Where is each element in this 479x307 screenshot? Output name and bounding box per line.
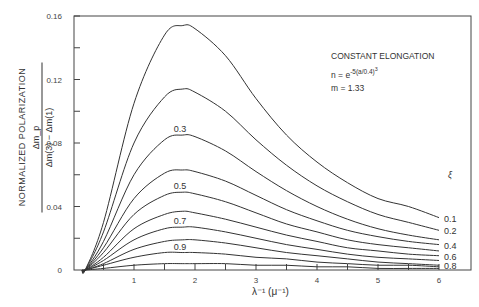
end-label-0.4: 0.4 bbox=[444, 241, 457, 251]
annotation-box: CONSTANT ELONGATION n = e-5(a/0.4)3 m = … bbox=[331, 50, 434, 95]
annotation-formula: n = e-5(a/0.4)3 bbox=[331, 63, 434, 82]
x-tick-label: 2 bbox=[193, 276, 198, 285]
end-label-0.8: 0.8 bbox=[444, 261, 457, 271]
legend-title-xi: ξ bbox=[448, 170, 453, 180]
curve-xi-0.9 bbox=[82, 252, 439, 270]
inline-label-0.9: 0.9 bbox=[174, 242, 187, 252]
y-axis-fraction: Δm_p Δm(3) − Δm(1) bbox=[22, 20, 62, 270]
end-label-0.2: 0.2 bbox=[444, 226, 457, 236]
curve-xi-0.5 bbox=[82, 192, 439, 271]
inline-label-0.5: 0.5 bbox=[174, 181, 187, 191]
curve-xi-0.4 bbox=[82, 170, 439, 272]
curve-xi-1.0 bbox=[82, 264, 439, 271]
x-tick-label: 6 bbox=[437, 276, 442, 285]
x-axis-ticks: 123456 bbox=[104, 264, 442, 285]
curve-xi-0.6 bbox=[82, 211, 439, 271]
annotation-title: CONSTANT ELONGATION bbox=[331, 50, 434, 63]
annotation-index: m = 1.33 bbox=[331, 82, 434, 95]
chart-plot-area: 123456 00.040.080.120.16 0.30.50.70.90.1… bbox=[0, 0, 479, 307]
x-axis-title: λ⁻¹ (μ⁻¹) bbox=[252, 286, 289, 297]
inline-label-0.7: 0.7 bbox=[174, 216, 187, 226]
inline-label-0.3: 0.3 bbox=[174, 124, 187, 134]
x-tick-label: 3 bbox=[254, 276, 259, 285]
fraction-numerator: Δm_p bbox=[31, 63, 43, 213]
curve-xi-0.8 bbox=[82, 240, 439, 271]
end-label-0.6: 0.6 bbox=[444, 252, 457, 262]
fraction-denominator: Δm(3) − Δm(1) bbox=[43, 43, 54, 233]
y-axis-fraction-text: Δm_p Δm(3) − Δm(1) bbox=[31, 43, 54, 233]
x-tick-label: 5 bbox=[376, 276, 381, 285]
x-tick-label: 4 bbox=[315, 276, 320, 285]
x-tick-label: 1 bbox=[132, 276, 137, 285]
end-label-0.1: 0.1 bbox=[444, 214, 457, 224]
